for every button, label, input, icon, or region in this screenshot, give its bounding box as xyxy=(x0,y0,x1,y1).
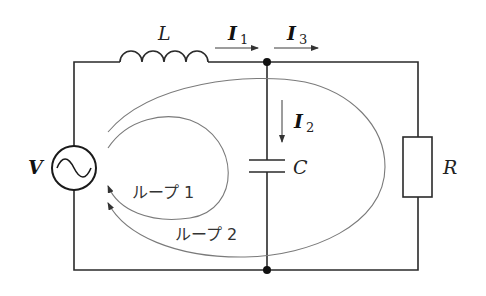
svg-text:I: I xyxy=(227,22,238,44)
junction-top xyxy=(263,58,271,66)
current-label-i3: I 3 xyxy=(286,22,307,47)
capacitor xyxy=(249,160,285,172)
ac-source xyxy=(52,146,96,190)
svg-text:3: 3 xyxy=(299,32,307,47)
svg-text:I: I xyxy=(286,22,297,44)
source-label: V xyxy=(28,156,45,178)
loop-1-path xyxy=(108,117,228,220)
resistor-label: R xyxy=(442,156,457,178)
loop-2-label: ループ 2 xyxy=(175,225,237,244)
loop-2-path xyxy=(108,79,385,258)
svg-text:I: I xyxy=(293,110,304,132)
junction-bottom xyxy=(263,266,271,274)
svg-text:1: 1 xyxy=(240,32,248,47)
capacitor-label: C xyxy=(293,156,308,178)
svg-text:2: 2 xyxy=(306,120,314,135)
wires xyxy=(74,62,418,270)
circuit-diagram: L C R V I 1 I 3 I 2 ループ 1 ループ 2 xyxy=(0,0,486,296)
current-label-i1: I 1 xyxy=(227,22,248,47)
inductor-label: L xyxy=(157,22,171,44)
inductor xyxy=(120,51,208,62)
loop-1-label: ループ 1 xyxy=(132,183,194,202)
current-label-i2: I 2 xyxy=(293,110,314,135)
resistor xyxy=(403,137,432,197)
